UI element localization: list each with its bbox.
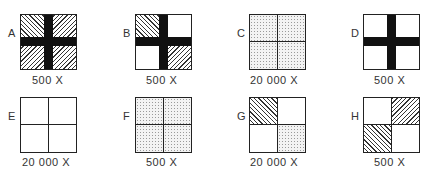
magnification-caption: 20 000 X <box>250 156 298 168</box>
quadrant-bottom-left <box>250 125 278 152</box>
specimen-square <box>20 14 77 70</box>
panel-label: F <box>123 110 130 122</box>
magnification-caption: 20 000 X <box>22 156 70 168</box>
quadrant-top-left <box>250 15 278 42</box>
quadrant-bottom-right <box>164 125 192 152</box>
quadrant-top-right <box>164 98 192 125</box>
quadrant-top-right <box>278 15 306 42</box>
specimen-square <box>363 97 420 153</box>
quadrant-bottom-left <box>136 125 164 152</box>
dark-horizontal-band <box>135 37 192 46</box>
quadrant-bottom-right <box>278 42 306 69</box>
quadrant-bottom-right <box>49 125 77 152</box>
magnification-caption: 500 X <box>32 74 63 86</box>
panel-a: A 500 X <box>8 12 108 98</box>
panel-label: A <box>8 27 15 39</box>
quadrant-bottom-right <box>392 42 420 69</box>
specimen-square <box>135 97 192 153</box>
quadrant-top-right <box>392 98 420 125</box>
quadrant-bottom-right <box>392 125 420 152</box>
quadrant-bottom-right <box>49 42 77 69</box>
magnification-caption: 20 000 X <box>250 74 298 86</box>
specimen-square <box>135 14 192 70</box>
quadrant-bottom-right <box>278 125 306 152</box>
panel-c: C 20 000 X <box>237 12 337 98</box>
panel-h: H 500 X <box>351 95 436 176</box>
panel-label: C <box>237 27 245 39</box>
quadrant-top-left <box>21 98 49 125</box>
quadrant-top-right <box>49 98 77 125</box>
magnification-caption: 500 X <box>146 74 177 86</box>
panel-g: G 20 000 X <box>237 95 337 176</box>
magnification-caption: 500 X <box>374 74 405 86</box>
panel-label: B <box>123 27 130 39</box>
magnification-caption: 500 X <box>374 156 405 168</box>
dark-horizontal-band <box>20 37 77 46</box>
panel-d: D 500 X <box>351 12 436 98</box>
specimen-square <box>20 97 77 153</box>
panel-label: E <box>8 110 15 122</box>
quadrant-top-left <box>364 98 392 125</box>
panel-label: G <box>237 110 246 122</box>
quadrant-bottom-left <box>21 125 49 152</box>
panel-f: F 500 X <box>123 95 223 176</box>
quadrant-top-left <box>250 98 278 125</box>
panel-e: E 20 000 X <box>8 95 108 176</box>
quadrant-bottom-left <box>250 42 278 69</box>
panel-label: D <box>351 27 359 39</box>
quadrant-bottom-left <box>364 125 392 152</box>
dark-horizontal-band <box>363 37 420 46</box>
panel-b: B 500 X <box>123 12 223 98</box>
specimen-square <box>249 97 306 153</box>
specimen-square <box>249 14 306 70</box>
quadrant-bottom-right <box>164 42 192 69</box>
panel-label: H <box>351 110 359 122</box>
specimen-square <box>363 14 420 70</box>
quadrant-top-left <box>136 98 164 125</box>
quadrant-top-right <box>278 98 306 125</box>
magnification-caption: 500 X <box>146 156 177 168</box>
